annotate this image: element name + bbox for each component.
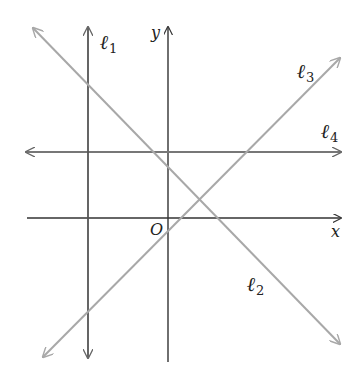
svg-text:ℓ: ℓ <box>297 59 306 83</box>
label-l2: ℓ 2 <box>247 272 264 298</box>
label-l1: ℓ 1 <box>100 30 117 56</box>
svg-text:ℓ: ℓ <box>247 272 256 296</box>
svg-text:ℓ: ℓ <box>100 30 109 54</box>
svg-text:4: 4 <box>330 130 338 145</box>
origin-label: O <box>150 220 163 239</box>
coordinate-plane: y x O ℓ 1 ℓ 2 ℓ 3 ℓ 4 <box>0 0 360 375</box>
label-l4: ℓ 4 <box>321 119 338 145</box>
line-l2 <box>33 28 340 344</box>
x-axis-label: x <box>331 222 340 241</box>
y-axis-label: y <box>150 23 161 42</box>
label-l3: ℓ 3 <box>297 59 314 85</box>
svg-text:3: 3 <box>306 70 314 85</box>
svg-text:ℓ: ℓ <box>321 119 330 143</box>
svg-text:1: 1 <box>109 41 117 56</box>
svg-text:2: 2 <box>256 283 264 298</box>
